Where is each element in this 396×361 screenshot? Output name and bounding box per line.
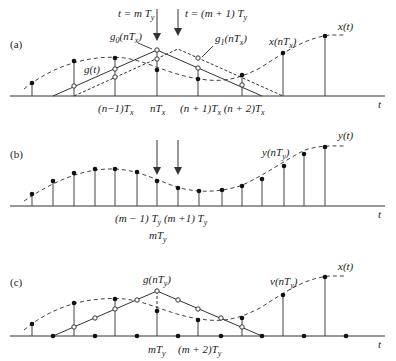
- arrow-down-icon: [153, 167, 161, 175]
- tick-m-1-Ty: (m − 1) Ty (m +1) Ty: [115, 212, 208, 227]
- axis-b-label: t: [378, 208, 382, 220]
- tick-n1-n2-Tx: (n + 1)Tx (n + 2)Tx: [180, 102, 265, 117]
- g0-label: g0(nTx): [110, 30, 142, 45]
- arrow-b-2: [174, 140, 182, 175]
- y-t-label: y(t): [337, 129, 354, 142]
- tick-nTx: nTx: [150, 102, 166, 117]
- tick-m2-Ty: (m + 2)Ty: [178, 343, 222, 358]
- arrow-label-m1Ty: t = (m + 1) Ty: [185, 7, 248, 22]
- arrow-down-icon: [174, 28, 182, 36]
- y-nTy-label: y(nTy): [261, 146, 290, 161]
- panel-b-label: (b): [10, 148, 23, 161]
- tick-n-1-Tx: (n−1)Tx: [98, 102, 134, 117]
- arrow-t-m1Ty: [174, 9, 182, 36]
- arrow-b-1: [153, 140, 161, 175]
- x-nTx-label: x(nTx): [268, 35, 297, 50]
- panel-a-label: (a): [10, 38, 23, 51]
- axis-c-label: t: [378, 338, 382, 350]
- sampling-rate-conversion-diagram: (a) t = m Ty t = (m + 1) Ty t: [0, 0, 396, 361]
- arrow-down-icon: [174, 167, 182, 175]
- x-t-label-c: x(t): [337, 260, 354, 273]
- g-t-label: g(t): [84, 63, 100, 76]
- arrow-down-icon: [153, 33, 161, 41]
- panel-b: (b) t y(nTy): [10, 129, 385, 244]
- v-nTy-label: v(nTy): [270, 275, 298, 290]
- g-nTy-label: g(nTy): [143, 273, 171, 288]
- tick-mTy-b: mTy: [149, 229, 167, 244]
- tick-mTy-c: mTy: [148, 343, 166, 358]
- axis-a-label: t: [378, 98, 382, 110]
- panel-c-label: (c): [10, 276, 23, 289]
- panel-a: (a) t = m Ty t = (m + 1) Ty t: [10, 7, 385, 117]
- x-t-label: x(t): [337, 20, 354, 33]
- arrow-label-mTy: t = m Ty: [118, 7, 155, 22]
- panel-c: (c) t g(nTy) v(n: [10, 260, 385, 358]
- g1-label: g1(nTx): [215, 32, 247, 47]
